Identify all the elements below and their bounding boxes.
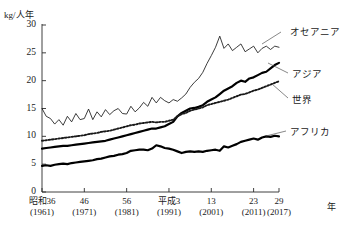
y-tick-5: 5 [14,158,36,168]
series-label-3: アフリカ [290,124,330,138]
series-line-3 [42,136,279,166]
x-tick-year: (2017) [249,207,309,218]
x-tick-era: 29 [249,196,309,207]
series-label-2: 世界 [292,92,312,106]
y-tick-30: 30 [14,19,36,29]
x-tick-2017: 29(2017) [249,196,309,218]
series-label-0: オセアニア [290,24,340,38]
series-label-1: アジア [292,66,322,80]
fish-consumption-line-chart: kg/人年 051015202530 昭和36(1961)46(1971)56(… [0,0,348,235]
series-line-2 [42,81,279,141]
y-tick-15: 15 [14,103,36,113]
y-tick-10: 10 [14,130,36,140]
y-tick-25: 25 [14,47,36,57]
y-tick-0: 0 [14,186,36,196]
y-tick-20: 20 [14,75,36,85]
x-axis-unit-label: 年 [327,200,336,213]
